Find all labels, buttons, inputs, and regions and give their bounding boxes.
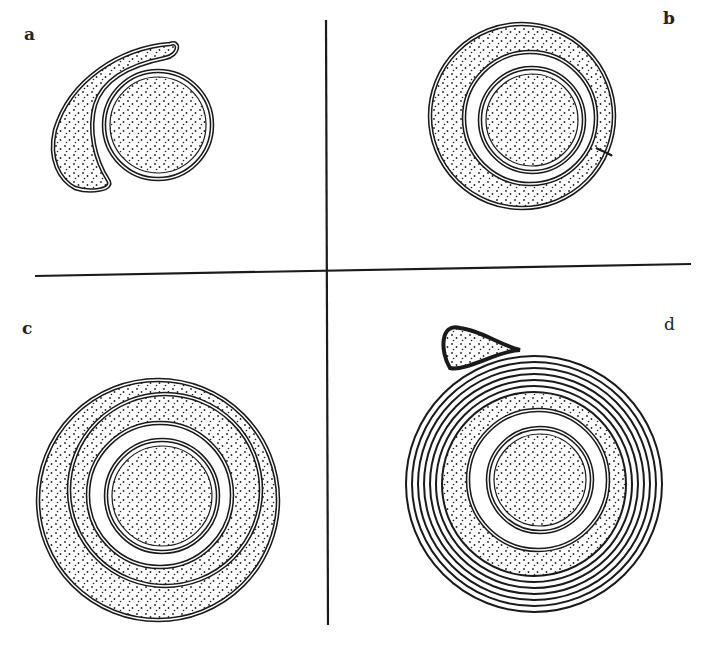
panel-c-drawing <box>38 380 278 620</box>
panel-label-b: b <box>663 8 675 28</box>
myelination-diagram <box>0 0 704 650</box>
panel-a-drawing <box>53 43 212 190</box>
panel-label-d: d <box>664 314 675 334</box>
panel-d-drawing <box>406 327 662 612</box>
panel-label-c: c <box>22 318 32 338</box>
panel-label-a: a <box>24 24 35 44</box>
panel-b-drawing <box>430 24 614 208</box>
caption-fragment <box>380 638 704 650</box>
